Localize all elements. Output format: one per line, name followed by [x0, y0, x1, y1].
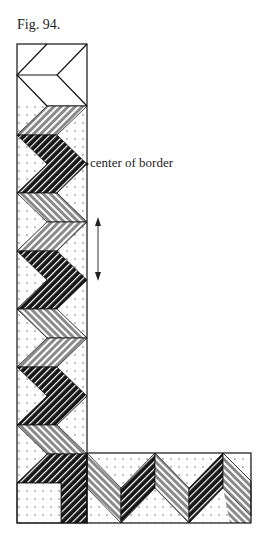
top-white-block [17, 44, 87, 106]
horizontal-strip [87, 453, 251, 523]
repeat-arrow-icon [95, 217, 101, 281]
quilt-border-diagram [0, 0, 258, 545]
center-marker [86, 163, 89, 166]
corner-square [17, 483, 61, 523]
